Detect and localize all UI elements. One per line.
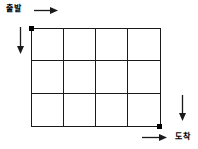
lattice-grid — [31, 28, 161, 127]
start-dot — [29, 26, 34, 31]
grid-cell — [32, 94, 64, 126]
grid-cell — [128, 29, 160, 61]
grid-cell — [64, 61, 96, 93]
grid-cell — [64, 29, 96, 61]
arrival-label: 도착 — [175, 133, 190, 141]
end-dot — [157, 124, 162, 129]
grid-cell — [64, 94, 96, 126]
grid-cell — [32, 29, 64, 61]
grid-cell — [32, 61, 64, 93]
grid-cell — [128, 94, 160, 126]
grid-cell — [128, 61, 160, 93]
arrow-down-icon — [16, 27, 25, 54]
grid-cell — [96, 29, 128, 61]
arrow-right-icon — [34, 6, 58, 15]
grid-cell — [96, 61, 128, 93]
arrow-down-icon — [178, 95, 187, 121]
arrow-right-icon — [142, 133, 167, 142]
grid-path-diagram: 출발 도착 — [0, 0, 198, 149]
grid-cell — [96, 94, 128, 126]
start-label: 출발 — [6, 5, 21, 13]
